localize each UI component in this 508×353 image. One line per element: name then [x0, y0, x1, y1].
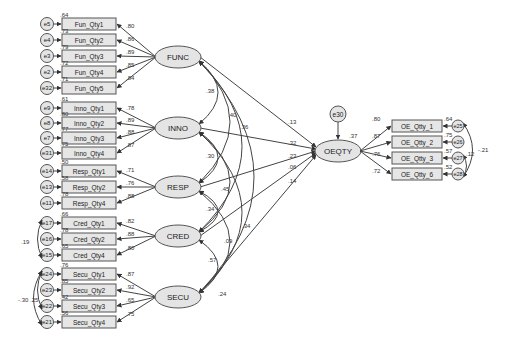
indicator-label: OE_Qtty_6	[401, 171, 434, 179]
correlation-value: .38	[206, 88, 215, 94]
path-coefficient: .14	[288, 178, 297, 184]
r-squared: .56	[60, 310, 69, 316]
error-label: e3	[44, 53, 51, 59]
loading-value: .76	[126, 180, 135, 186]
correlation-value: .45	[221, 186, 230, 192]
latent-cred: CRED	[155, 225, 201, 247]
latent-label: RESP	[167, 183, 189, 192]
r-squared: .78	[60, 227, 69, 233]
loading-arrow	[117, 128, 156, 138]
latent-secu: SECU	[155, 286, 201, 308]
r-squared: .66	[60, 211, 69, 217]
loading-value: .71	[126, 167, 135, 173]
loading-value: .78	[126, 105, 135, 111]
latent-label: FUNC	[167, 53, 189, 62]
error-label: e21	[42, 319, 53, 325]
loading-value: .88	[126, 231, 135, 237]
error-label: e13	[42, 184, 53, 190]
correlation-value: .24	[218, 291, 227, 297]
latent-label: OEQTY	[324, 147, 353, 156]
error-label: e23	[42, 287, 53, 293]
covariance-value: -.30	[18, 297, 29, 303]
indicator-fun_qty3: Fun_Qty3e3.79.89	[41, 44, 157, 63]
loading-value: .80	[126, 245, 135, 251]
structural-paths: .13.32.23.06.14	[200, 57, 316, 293]
error-label: e2	[44, 69, 51, 75]
indicator-cred_qty1: Cred_Qty1e17.66.82	[41, 211, 157, 236]
r-squared: .72	[60, 60, 69, 66]
latent-resp: RESP	[155, 176, 201, 198]
loading-value: .80	[126, 23, 135, 29]
r-squared: .57	[444, 148, 453, 154]
r-squared: .61	[60, 96, 69, 102]
error-label: e32	[42, 85, 53, 91]
r-squared: .64	[444, 116, 453, 122]
error-label: e26	[453, 139, 462, 145]
correlation-value: .34	[206, 206, 215, 212]
loading-arrow	[360, 142, 391, 151]
indicator-secu_qty2: Secu_Qty2e23.85.92	[41, 278, 157, 297]
path-resp-oeqty	[200, 151, 316, 187]
r-squared: .52	[444, 164, 453, 170]
error-label: e28	[453, 171, 462, 177]
loading-value: .92	[126, 284, 135, 290]
r-squared: .85	[60, 278, 69, 284]
error-covariance-e25-e28	[463, 123, 473, 177]
indicator-label: Resp_Qty1	[73, 168, 106, 176]
latent-func: FUNC	[155, 46, 201, 68]
indicator-label: Secu_Qty1	[73, 271, 106, 279]
measurement-model: Fun_Qty1e5.64.80Fun_Qty2e4.73.86Fun_Qty3…	[41, 12, 157, 329]
indicator-label: Cred_Qty1	[73, 220, 105, 228]
loading-value: .88	[126, 193, 135, 199]
loading-value: .88	[126, 129, 135, 135]
error-label: e7	[44, 135, 51, 141]
covariance-value: .12	[466, 151, 475, 157]
indicator-label: Resp_Qty4	[73, 200, 106, 208]
error-label: e4	[44, 37, 51, 43]
correlation-value: .34	[242, 223, 251, 229]
path-coefficient: .13	[288, 119, 297, 125]
r-squared: .37	[349, 133, 358, 139]
latent-label: CRED	[167, 232, 190, 241]
correlation-cred-secu	[199, 240, 218, 293]
loading-value: .84	[126, 75, 135, 81]
error-label: e15	[42, 252, 53, 258]
correlation-value: .57	[208, 257, 217, 263]
outcome-block: OEQTYe30.37OE_Qtty_1.80e25.64OE_Qtty_2.8…	[315, 106, 464, 180]
loading-value: .86	[126, 36, 135, 42]
indicator-label: Inno_Qty2	[74, 120, 104, 128]
error-label: e16	[42, 236, 53, 242]
indicator-label: Secu_Qty2	[73, 287, 106, 295]
r-squared: .73	[60, 28, 69, 34]
error-label: e25	[453, 123, 462, 129]
sem-path-diagram: .38.40.36.34.30.45.09.34.24.57 .13.32.23…	[0, 0, 508, 353]
r-squared: .50	[60, 159, 69, 165]
indicator-label: OE_Qtty_1	[401, 123, 434, 131]
error-label: e14	[42, 168, 53, 174]
loading-value: .82	[126, 218, 135, 224]
indicator-label: Fun_Qty3	[75, 53, 104, 61]
correlation-value: .30	[206, 153, 215, 159]
covariance-value: -.21	[478, 147, 489, 153]
error-label: e30	[333, 111, 344, 118]
indicator-label: Cred_Qty2	[73, 236, 105, 244]
loading-arrow	[117, 171, 156, 187]
error-label: e17	[42, 220, 53, 226]
loading-value: .87	[126, 142, 135, 148]
indicator-label: Inno_Qty3	[74, 135, 104, 143]
indicator-label: Cred_Qty4	[73, 252, 105, 260]
error-label: e31	[42, 150, 53, 156]
indicator-label: OE_Qtty_2	[401, 139, 434, 147]
loading-value: .85	[126, 62, 135, 68]
loading-value: .89	[126, 49, 135, 55]
loading-arrow	[117, 56, 156, 57]
r-squared: .75	[60, 141, 69, 147]
error-label: e8	[44, 120, 51, 126]
indicator-resp_qty2: Resp_Qty2e13.58.76	[41, 175, 157, 194]
indicator-label: Fun_Qty2	[75, 37, 104, 45]
indicator-label: Secu_Qty3	[73, 303, 106, 311]
latent-oeqty: OEQTYe30.37	[315, 106, 361, 162]
error-label: e27	[453, 155, 462, 161]
error-label: e22	[42, 303, 53, 309]
indicator-label: Fun_Qty1	[75, 21, 104, 29]
